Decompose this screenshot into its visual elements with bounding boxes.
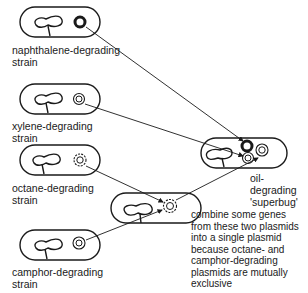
camphor-cell	[20, 230, 100, 260]
naphthalene-label: naphthalene-degrading strain	[12, 44, 120, 68]
superbug-label: oil-degrading 'superbug'	[250, 172, 308, 208]
hybrid-cell	[111, 193, 201, 223]
xylene-plasmid-icon	[74, 94, 85, 105]
xylene-cell	[20, 84, 100, 114]
superbug-xylene-plasmid-icon	[243, 153, 254, 164]
naphthalene-plasmid-icon	[75, 17, 85, 27]
combination-note: combine some genes from these two plasmi…	[191, 209, 299, 290]
camphor-label: camphor-degrading strain	[12, 266, 103, 290]
octane-cell	[20, 145, 100, 175]
superbug-cell	[201, 138, 287, 168]
hybrid-plasmid-icon	[164, 200, 177, 213]
octane-label: octane-degrading strain	[12, 182, 94, 206]
superbug-hybrid-plasmid-icon	[256, 144, 268, 156]
octane-plasmid-icon	[74, 154, 86, 166]
naphthalene-cell	[20, 7, 100, 37]
camphor-plasmid-icon	[73, 237, 85, 249]
xylene-label: xylene-degrading strain	[12, 120, 93, 144]
superbug-naphthalene-plasmid-icon	[242, 141, 252, 151]
